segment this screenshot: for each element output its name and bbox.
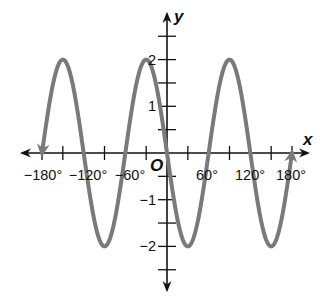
y-tick-label: 2 xyxy=(148,52,156,68)
x-tick-label: 60° xyxy=(196,167,218,183)
x-tick-label: −60° xyxy=(115,167,145,183)
x-tick-label: −180° xyxy=(24,167,62,183)
y-axis-title: y xyxy=(173,7,185,26)
y-tick-label: 1 xyxy=(148,98,156,114)
sine-graph: −180°−120°−60°60°120°180° 21−1−2 x y O xyxy=(0,0,323,303)
origin-label: O xyxy=(150,156,163,175)
x-tick-label: 180° xyxy=(276,167,306,183)
y-tick-label: −1 xyxy=(139,192,156,208)
x-tick-label: 120° xyxy=(235,167,265,183)
x-axis-title: x xyxy=(302,130,314,149)
x-axis-tick-labels: −180°−120°−60°60°120°180° xyxy=(24,167,306,183)
y-tick-label: −2 xyxy=(139,238,156,254)
x-tick-label: −120° xyxy=(69,167,107,183)
